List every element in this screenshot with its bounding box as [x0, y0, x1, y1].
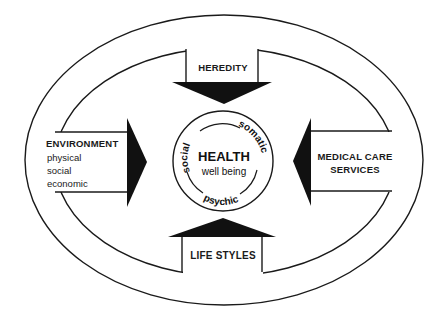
medical-care-label-line1: MEDICAL CARE	[312, 151, 398, 162]
environment-sub-social: social	[47, 164, 71, 177]
heredity-label: HEREDITY	[193, 62, 253, 73]
life-styles-label: LIFE STYLES	[186, 250, 260, 261]
environment-sub-economic: economic	[47, 177, 88, 190]
environment-label: ENVIRONMENT	[46, 138, 118, 149]
health-title: HEALTH	[186, 149, 262, 164]
life-styles-arrow	[168, 218, 276, 272]
environment-sub-physical: physical	[47, 151, 81, 164]
medical-care-label-line2: SERVICES	[312, 164, 398, 175]
heredity-arrow	[172, 49, 272, 104]
health-subtitle: well being	[186, 166, 262, 177]
medical-care-arrow	[293, 118, 392, 206]
